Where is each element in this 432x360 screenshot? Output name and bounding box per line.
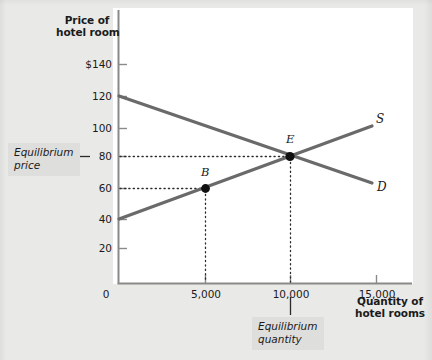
point-b-marker [201,184,210,193]
x-tick-label-0: 0 [94,288,118,300]
supply-curve-label: S [376,112,384,126]
equilibrium-price-line1: Equilibrium [14,146,74,158]
equilibrium-price-callout: Equilibrium price [8,143,80,176]
demand-curve-label: D [377,180,387,194]
y-tick-label-20: 20 [60,242,112,254]
equilibrium-price-line2: price [14,159,40,171]
x-tick-label-15000: 15,000 [344,288,410,300]
supply-demand-figure: Price of hotel room Quantity of hotel ro… [0,0,432,360]
equilibrium-quantity-line2: quantity [258,333,302,345]
x-tick-label-10000: 10,000 [258,288,324,300]
equilibrium-quantity-callout: Equilibrium quantity [252,317,324,350]
y-tick-label-120: 120 [60,90,112,102]
y-axis-title: Price of hotel room [56,14,118,39]
point-b-label: B [201,166,209,180]
point-e-marker [285,152,294,161]
y-tick-label-140: $140 [60,58,112,70]
x-tick-label-5000: 5,000 [175,288,237,300]
y-tick-label-60: 60 [60,182,112,194]
y-axis-title-line2: hotel room [56,26,120,38]
point-e-label: E [286,133,294,147]
y-tick-label-40: 40 [60,213,112,225]
x-axis-title-line2: hotel rooms [355,307,425,319]
y-axis-title-line1: Price of [65,14,109,26]
equilibrium-quantity-line1: Equilibrium [258,320,318,332]
y-tick-label-100: 100 [60,122,112,134]
